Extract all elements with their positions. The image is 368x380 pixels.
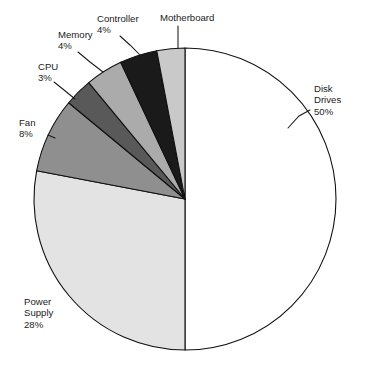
slice-label-fan: Fan8% xyxy=(19,117,36,139)
slice-label-motherboard: Motherboard xyxy=(160,12,214,23)
pie-slices-group xyxy=(34,48,336,350)
leader-line-memory xyxy=(78,52,103,72)
slice-label-cpu: CPU3% xyxy=(38,61,58,83)
leader-line-cpu xyxy=(54,82,75,99)
slice-label-controller: Controller4% xyxy=(97,13,139,35)
slice-label-disk-drives: DiskDrives50% xyxy=(314,83,341,117)
pie-chart-canvas: DiskDrives50%PowerSupply28%Fan8%CPU3%Mem… xyxy=(0,0,368,380)
leader-line-controller xyxy=(120,36,141,56)
slice-label-power-supply: PowerSupply28% xyxy=(24,296,54,330)
slice-label-memory: Memory4% xyxy=(58,29,93,51)
pie-chart-figure: DiskDrives50%PowerSupply28%Fan8%CPU3%Mem… xyxy=(0,0,368,380)
pie-slice-power-supply xyxy=(34,171,185,350)
